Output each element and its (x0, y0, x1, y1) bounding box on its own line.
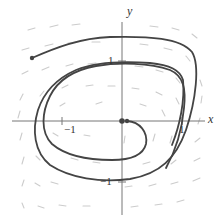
y-tick-label-neg1: −1 (100, 176, 112, 187)
y-tick-label-1: 1 (108, 55, 114, 66)
x-axis-label: x (208, 114, 213, 125)
x-tick-label-neg1: −1 (64, 124, 76, 135)
phase-portrait-svg (0, 0, 222, 222)
trajectories (32, 37, 196, 181)
inner-trajectory (44, 64, 185, 168)
phase-portrait: y x 1 −1 1 −1 (0, 0, 222, 222)
inner-start-point (125, 119, 129, 123)
outer-start-point (30, 56, 34, 60)
x-tick-label-1: 1 (179, 124, 185, 135)
equilibrium-point (119, 118, 125, 124)
y-axis-label: y (127, 6, 132, 17)
